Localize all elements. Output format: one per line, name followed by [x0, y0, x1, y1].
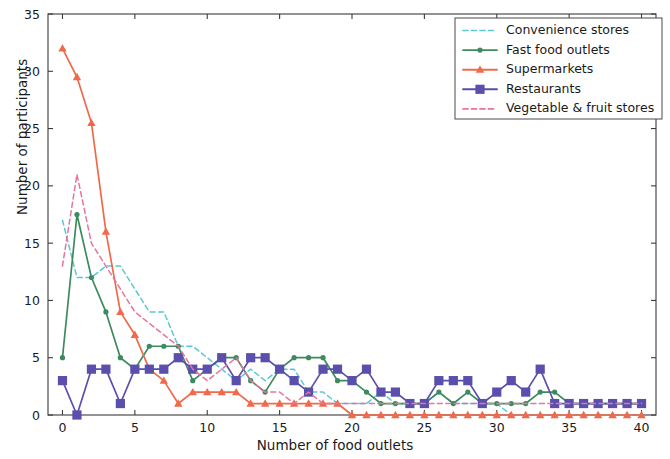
- x-axis-label: Number of food outlets: [0, 437, 670, 453]
- data-marker: [118, 355, 123, 360]
- data-marker: [320, 355, 325, 360]
- data-marker: [306, 355, 311, 360]
- data-marker: [362, 365, 371, 374]
- data-marker: [434, 376, 443, 385]
- data-marker: [391, 387, 400, 396]
- data-marker: [289, 376, 298, 385]
- data-marker: [291, 355, 296, 360]
- data-marker: [463, 376, 472, 385]
- data-marker: [492, 387, 501, 396]
- data-marker: [147, 344, 152, 349]
- data-marker: [203, 365, 212, 374]
- y-tick-label: 0: [32, 408, 40, 423]
- legend-label: Supermarkets: [506, 61, 593, 76]
- y-tick-label: 5: [32, 350, 40, 365]
- data-marker: [74, 212, 79, 217]
- data-marker: [521, 387, 530, 396]
- data-marker: [552, 389, 557, 394]
- data-marker: [102, 227, 110, 234]
- x-tick-label: 30: [489, 420, 505, 435]
- data-marker: [73, 73, 81, 80]
- legend-label: Restaurants: [506, 81, 581, 96]
- data-marker: [89, 275, 94, 280]
- data-marker: [145, 365, 154, 374]
- x-tick-label: 40: [634, 420, 650, 435]
- x-tick-label: 15: [272, 420, 288, 435]
- data-marker: [465, 389, 470, 394]
- data-marker: [436, 389, 441, 394]
- x-tick-label: 35: [561, 420, 577, 435]
- data-marker: [190, 378, 195, 383]
- data-marker: [101, 365, 110, 374]
- data-marker: [538, 389, 543, 394]
- x-tick-label: 0: [58, 420, 66, 435]
- data-marker: [232, 376, 241, 385]
- data-marker: [536, 365, 545, 374]
- x-tick-label: 20: [344, 420, 360, 435]
- data-marker: [333, 365, 342, 374]
- legend-label: Convenience stores: [506, 22, 629, 37]
- legend-label: Fast food outlets: [506, 42, 610, 57]
- data-marker: [116, 308, 124, 315]
- data-marker: [376, 387, 385, 396]
- data-marker: [335, 378, 340, 383]
- legend-marker-swatch: [475, 85, 484, 94]
- data-marker: [161, 344, 166, 349]
- data-marker: [116, 399, 125, 408]
- data-marker: [60, 355, 65, 360]
- y-axis-label: Number of participants: [14, 59, 30, 215]
- data-marker: [275, 365, 284, 374]
- line-chart: 051015202530354005101520253035Convenienc…: [0, 0, 670, 459]
- y-tick-label: 10: [24, 293, 40, 308]
- data-marker: [87, 119, 95, 126]
- series-convenience-stores: [62, 220, 641, 415]
- chart-figure: 051015202530354005101520253035Convenienc…: [0, 0, 670, 459]
- data-marker: [58, 44, 66, 51]
- x-tick-label: 5: [131, 420, 139, 435]
- data-marker: [217, 353, 226, 362]
- data-marker: [364, 389, 369, 394]
- data-marker: [58, 376, 67, 385]
- data-marker: [507, 376, 516, 385]
- legend-marker-swatch: [477, 48, 482, 53]
- data-marker: [174, 353, 183, 362]
- x-tick-label: 25: [416, 420, 432, 435]
- data-marker: [246, 353, 255, 362]
- data-marker: [103, 309, 108, 314]
- data-marker: [261, 353, 270, 362]
- data-marker: [130, 365, 139, 374]
- data-marker: [72, 410, 81, 419]
- series-line: [62, 215, 641, 404]
- legend: Convenience storesFast food outletsSuper…: [455, 18, 662, 119]
- data-marker: [87, 365, 96, 374]
- data-marker: [318, 365, 327, 374]
- y-tick-label: 35: [24, 7, 40, 22]
- data-marker: [159, 365, 168, 374]
- x-tick-label: 10: [199, 420, 215, 435]
- data-marker: [449, 376, 458, 385]
- data-marker: [347, 376, 356, 385]
- series-line: [62, 220, 641, 415]
- legend-label: Vegetable & fruit stores: [506, 100, 654, 115]
- y-tick-label: 15: [24, 236, 40, 251]
